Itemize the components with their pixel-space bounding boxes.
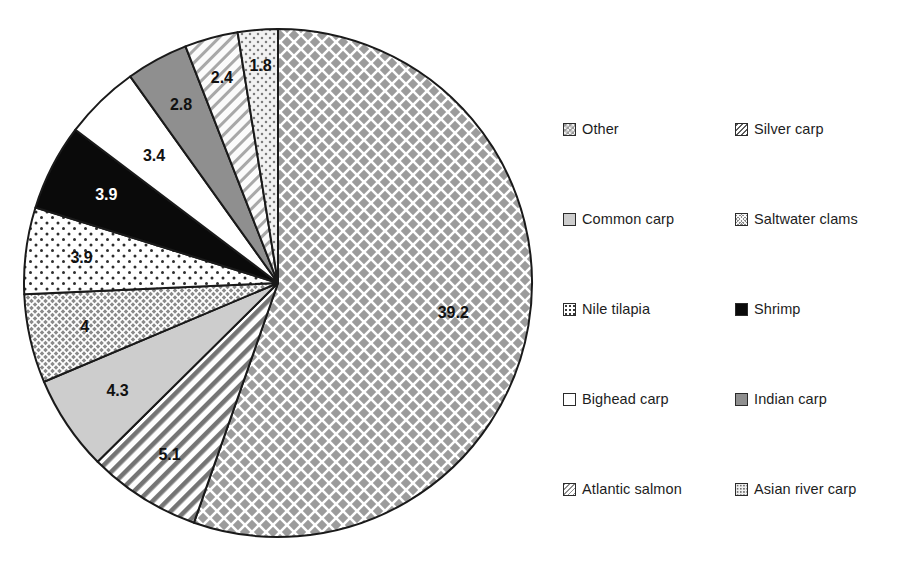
legend-swatch-common-carp-icon — [563, 213, 576, 226]
legend-row: Other Silver carp — [563, 118, 907, 140]
legend-row: Atlantic salmon Asian river carp — [563, 478, 907, 500]
pie-plot-area: 39.25.14.343.93.93.42.82.41.8 — [0, 0, 560, 561]
legend-swatch-atlantic-salmon-icon — [563, 483, 576, 496]
legend-label-nile-tilapia: Nile tilapia — [582, 301, 650, 317]
legend-swatch-saltwater-clams-icon — [735, 213, 748, 226]
legend-label-saltwater-clams: Saltwater clams — [754, 211, 858, 227]
pie-chart-figure: 39.25.14.343.93.93.42.82.41.8 Other Silv… — [0, 0, 909, 561]
legend-item-indian-carp[interactable]: Indian carp — [735, 388, 907, 410]
chart-legend: Other Silver carp Common carp Saltwater … — [563, 118, 907, 518]
slice-value-label-nile-tilapia: 3.9 — [70, 249, 92, 266]
slice-value-label-saltwater-clams: 4 — [80, 318, 89, 335]
legend-label-asian-river-carp: Asian river carp — [754, 481, 856, 497]
legend-label-indian-carp: Indian carp — [754, 391, 827, 407]
legend-item-bighead-carp[interactable]: Bighead carp — [563, 388, 735, 410]
slice-value-label-atlantic-salmon: 2.4 — [211, 69, 233, 86]
legend-label-common-carp: Common carp — [582, 211, 674, 227]
legend-label-silver-carp: Silver carp — [754, 121, 824, 137]
legend-row: Common carp Saltwater clams — [563, 208, 907, 230]
legend-label-other: Other — [582, 121, 619, 137]
legend-item-asian-river-carp[interactable]: Asian river carp — [735, 478, 907, 500]
slice-value-label-asian-river-carp: 1.8 — [249, 57, 271, 74]
legend-swatch-silver-carp-icon — [735, 123, 748, 136]
legend-item-silver-carp[interactable]: Silver carp — [735, 118, 907, 140]
slice-value-label-shrimp: 3.9 — [95, 186, 117, 203]
legend-item-common-carp[interactable]: Common carp — [563, 208, 735, 230]
legend-label-atlantic-salmon: Atlantic salmon — [582, 481, 682, 497]
legend-swatch-asian-river-carp-icon — [735, 483, 748, 496]
legend-swatch-nile-tilapia-icon — [563, 303, 576, 316]
legend-swatch-indian-carp-icon — [735, 393, 748, 406]
slice-value-label-indian-carp: 2.8 — [170, 96, 192, 113]
legend-label-bighead-carp: Bighead carp — [582, 391, 669, 407]
pie-slices — [24, 29, 532, 537]
legend-row: Nile tilapia Shrimp — [563, 298, 907, 320]
legend-item-shrimp[interactable]: Shrimp — [735, 298, 907, 320]
slice-value-label-other: 39.2 — [438, 304, 469, 321]
legend-item-saltwater-clams[interactable]: Saltwater clams — [735, 208, 907, 230]
slice-value-label-bighead-carp: 3.4 — [143, 147, 165, 164]
legend-swatch-bighead-carp-icon — [563, 393, 576, 406]
slice-value-label-common-carp: 4.3 — [106, 382, 128, 399]
legend-row: Bighead carp Indian carp — [563, 388, 907, 410]
slice-value-label-silver-carp: 5.1 — [158, 446, 180, 463]
legend-item-atlantic-salmon[interactable]: Atlantic salmon — [563, 478, 735, 500]
legend-swatch-other-icon — [563, 123, 576, 136]
legend-swatch-shrimp-icon — [735, 303, 748, 316]
legend-item-nile-tilapia[interactable]: Nile tilapia — [563, 298, 735, 320]
pie-svg: 39.25.14.343.93.93.42.82.41.8 — [0, 0, 560, 561]
legend-label-shrimp: Shrimp — [754, 301, 801, 317]
legend-item-other[interactable]: Other — [563, 118, 735, 140]
